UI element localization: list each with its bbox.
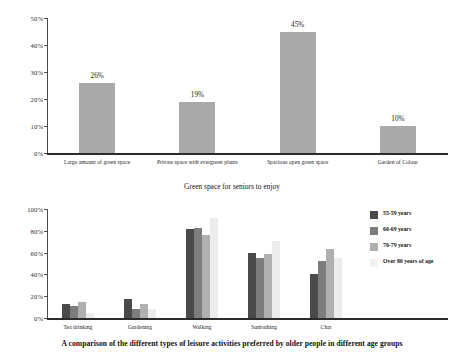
y-axis-tick-label: 20% — [11, 96, 43, 103]
y-axis-tick-label: 30% — [11, 69, 43, 76]
bar-value-label: 26% — [91, 72, 104, 80]
y-axis-tick-label: 0% — [11, 150, 43, 157]
bar — [210, 218, 218, 318]
y-axis-tick-label: 20% — [11, 293, 43, 300]
bar — [79, 83, 115, 153]
bottom-chart-x-axis-line — [47, 318, 448, 320]
x-axis-category-label: Tea drinking — [64, 324, 93, 330]
bar — [140, 304, 148, 318]
bar — [280, 32, 316, 154]
bar — [132, 309, 140, 318]
bar — [256, 258, 264, 318]
legend-swatch — [370, 211, 378, 219]
y-axis-tick-label: 60% — [11, 249, 43, 256]
green-space-bar-chart: 0%10%20%30%40%50% 26%19%45%10% Large amo… — [0, 0, 464, 178]
leisure-activities-bar-chart: 0%20%40%60%80%100% Tea drinkingGardening… — [0, 200, 464, 338]
bar — [86, 313, 94, 318]
bar — [186, 229, 194, 318]
x-axis-category-label: Walking — [192, 324, 211, 330]
bar — [318, 261, 326, 318]
bottom-chart-y-axis-line — [47, 209, 48, 319]
bottom-chart-caption: A comparison of the different types of l… — [0, 339, 464, 348]
x-axis-category-label: Large amount of green space — [64, 159, 130, 165]
bar — [334, 258, 342, 318]
top-figure: 0%10%20%30%40%50% 26%19%45%10% Large amo… — [0, 0, 464, 198]
bar — [148, 309, 156, 318]
legend-swatch — [370, 243, 378, 251]
bar — [380, 126, 416, 153]
bar — [70, 306, 78, 318]
y-axis-tick-label: 80% — [11, 227, 43, 234]
legend-swatch — [370, 227, 378, 235]
bar-value-label: 45% — [291, 21, 304, 29]
bar-value-label: 19% — [191, 91, 204, 99]
x-axis-category-label: Garden of Colour — [378, 159, 418, 165]
bottom-figure: 0%20%40%60%80%100% Tea drinkingGardening… — [0, 200, 464, 357]
legend-label: Over 80 years of age — [383, 258, 433, 264]
y-axis-tick-label: 50% — [11, 15, 43, 22]
x-axis-category-label: Sunbathing — [251, 324, 277, 330]
top-chart-caption: Green space for seniors to enjoy — [0, 182, 464, 191]
legend-label: 55-59 years — [383, 210, 411, 216]
bar — [194, 228, 202, 318]
bar — [78, 302, 86, 318]
bar — [264, 254, 272, 318]
y-axis-tick-label: 40% — [11, 42, 43, 49]
y-axis-tick-label: 10% — [11, 123, 43, 130]
bar — [124, 299, 132, 318]
legend-label: 70-79 years — [383, 242, 411, 248]
bar — [310, 274, 318, 318]
bar — [248, 253, 256, 318]
x-axis-category-label: Gardening — [128, 324, 152, 330]
y-axis-tick-label: 40% — [11, 271, 43, 278]
top-chart-x-axis-line — [47, 153, 448, 155]
bar — [202, 235, 210, 318]
bar — [62, 304, 70, 318]
legend-label: 60-69 years — [383, 226, 411, 232]
top-chart-y-axis-line — [47, 18, 48, 154]
x-axis-category-label: Private space with evergreen plants — [157, 159, 238, 165]
bar — [179, 102, 215, 153]
bar — [326, 249, 334, 318]
bar — [272, 241, 280, 318]
y-axis-tick-label: 0% — [11, 315, 43, 322]
y-axis-tick-label: 100% — [11, 206, 43, 213]
legend-swatch — [370, 259, 378, 267]
x-axis-category-label: Spacious open green space — [267, 159, 328, 165]
bar-value-label: 10% — [391, 115, 404, 123]
x-axis-category-label: Chat — [321, 324, 332, 330]
